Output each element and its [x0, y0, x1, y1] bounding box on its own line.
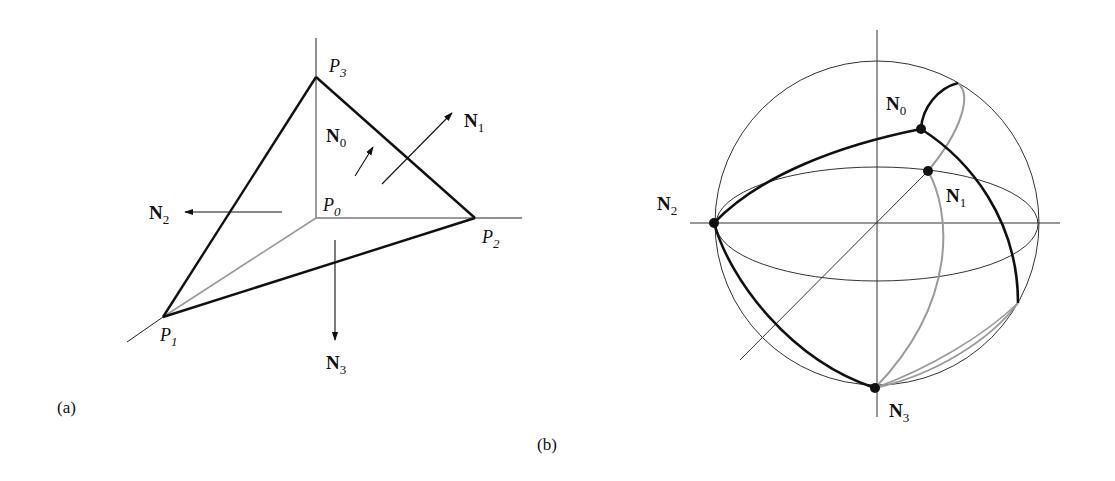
edge-p0-p1: [163, 218, 316, 317]
normal-n1-arrow: [382, 113, 452, 184]
panel-a-tetrahedron: P3 P0 P2 P1 N0 N1 N2 N3 (a): [57, 38, 522, 417]
label-n2: N2: [657, 193, 677, 218]
caption-b: (b): [537, 435, 557, 454]
label-p0: P0: [322, 195, 341, 219]
normal-n0-arrow: [355, 147, 373, 176]
y-axis: [127, 317, 163, 342]
label-n3: N3: [326, 352, 346, 377]
label-n1: N1: [464, 110, 484, 135]
panel-b-gauss-sphere: N0 N1 N2 N3 (b): [537, 30, 1060, 454]
label-p3: P3: [328, 56, 347, 80]
point-n1: [923, 166, 933, 176]
label-p1: P1: [159, 325, 178, 349]
edge-p1-p2: [163, 218, 475, 317]
label-n0: N0: [326, 125, 346, 150]
point-n2: [709, 218, 719, 228]
arc-loop-black: [921, 83, 958, 129]
label-n1: N1: [946, 185, 966, 210]
edge-p3-p1: [163, 77, 316, 317]
figure-canvas: P3 P0 P2 P1 N0 N1 N2 N3 (a): [0, 0, 1115, 481]
arc-n3-right-1: [875, 303, 1018, 388]
label-p2: P2: [481, 227, 500, 251]
point-n0: [916, 124, 926, 134]
label-n2: N2: [149, 202, 169, 227]
label-n3: N3: [889, 400, 909, 425]
label-n0: N0: [886, 93, 906, 118]
point-n3: [870, 383, 880, 393]
caption-a: (a): [57, 398, 76, 417]
arc-n3-right-2: [875, 303, 1018, 388]
